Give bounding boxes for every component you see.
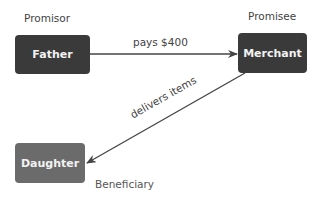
merchant-node: Merchant [238,33,307,73]
delivery-arrow [87,73,245,163]
daughter-node: Daughter [15,143,85,183]
father-node: Father [15,35,90,74]
payment-edge-label: pays $400 [133,36,188,48]
promisee-label: Promisee [248,10,296,22]
beneficiary-label: Beneficiary [95,178,154,190]
contract-diagram: Promisor Promisee Father Merchant Daught… [0,0,323,205]
father-node-label: Father [32,48,72,61]
merchant-node-label: Merchant [243,47,302,60]
daughter-node-label: Daughter [21,157,79,170]
promisor-label: Promisor [24,12,70,24]
